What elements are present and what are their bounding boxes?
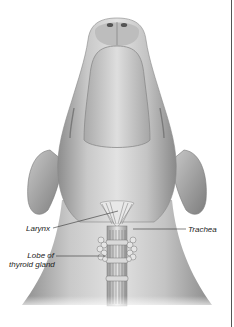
label-thyroid-gland: Lobe of thyroid gland xyxy=(9,251,54,269)
label-trachea: Trachea xyxy=(188,225,217,234)
anatomical-illustration xyxy=(0,0,234,327)
page-border xyxy=(231,0,232,327)
right-ear xyxy=(172,150,206,214)
label-thyroid-line1: Lobe of xyxy=(9,251,54,260)
label-thyroid-line2: thyroid gland xyxy=(9,260,54,269)
left-ear xyxy=(28,150,62,214)
label-larynx: Larynx xyxy=(26,224,50,233)
lower-jaw xyxy=(84,46,150,148)
